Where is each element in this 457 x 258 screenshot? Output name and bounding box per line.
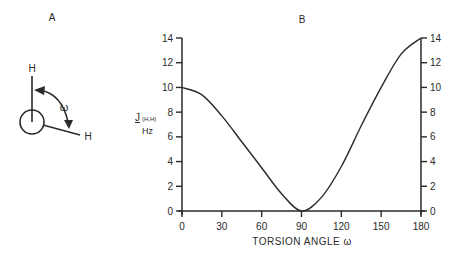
y-tick-label-left: 8 (167, 107, 173, 118)
x-tick-label: 90 (296, 221, 308, 232)
x-tick-label: 150 (373, 221, 390, 232)
y-tick-label-left: 2 (167, 181, 173, 192)
x-tick-label: 120 (333, 221, 350, 232)
chart-ticks: 00224466881010121214140306090120150180 (162, 33, 442, 233)
y-tick-label-left: 12 (162, 57, 174, 68)
y-tick-label-right: 12 (430, 57, 442, 68)
y-tick-label-right: 10 (430, 82, 442, 93)
x-tick-label: 60 (256, 221, 268, 232)
y-tick-label-left: 14 (162, 33, 174, 44)
y-axis-label-unit: Hz (142, 126, 153, 136)
atom-h-right: H (84, 131, 91, 142)
panel-a-label: A (49, 12, 56, 23)
y-tick-label-left: 6 (167, 131, 173, 142)
y-tick-label-right: 6 (430, 131, 436, 142)
y-axis-label-j: J (135, 112, 140, 123)
x-tick-label: 0 (179, 221, 185, 232)
y-tick-label-right: 0 (430, 206, 436, 217)
chart-axes (178, 38, 425, 215)
y-tick-label-left: 10 (162, 82, 174, 93)
rear-bond-line (43, 125, 80, 135)
y-axis-label-sub: (H,H) (142, 116, 156, 122)
y-tick-label-right: 8 (430, 107, 436, 118)
x-tick-label: 180 (413, 221, 430, 232)
y-tick-label-left: 4 (167, 156, 173, 167)
panel-b-label: B (299, 14, 306, 25)
x-axis-label: TORSION ANGLE ω (252, 236, 352, 247)
figure: A H H ω B 002244668810101212141403060901… (0, 0, 457, 258)
y-tick-label-right: 4 (430, 156, 436, 167)
karplus-curve (182, 38, 421, 211)
y-tick-label-right: 14 (430, 33, 442, 44)
atom-h-top: H (28, 63, 35, 74)
omega-symbol: ω (60, 101, 69, 113)
y-tick-label-left: 0 (167, 206, 173, 217)
y-tick-label-right: 2 (430, 181, 436, 192)
newman-diagram (20, 76, 80, 135)
x-tick-label: 30 (216, 221, 228, 232)
arrow-head-top (34, 86, 45, 95)
arrow-head-bottom (64, 120, 73, 129)
